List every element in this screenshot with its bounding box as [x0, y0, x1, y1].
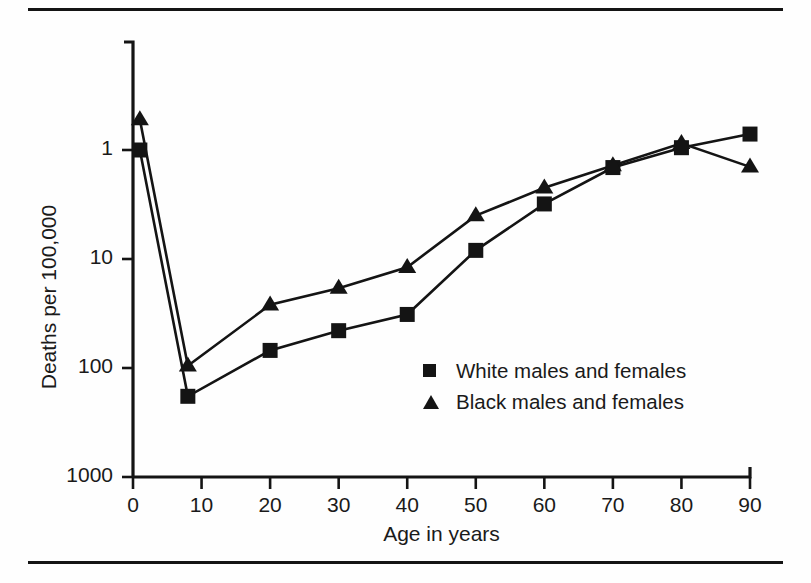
y-axis-tick-label: 1000: [23, 463, 113, 487]
square-marker-icon: [423, 364, 447, 377]
x-axis-tick-label: 70: [578, 493, 648, 517]
legend-label-white: White males and females: [456, 359, 686, 383]
y-axis-tick-label: 1: [23, 136, 113, 160]
axis-group: [122, 42, 750, 489]
x-axis-tick-label: 90: [715, 493, 785, 517]
legend-label-black: Black males and females: [456, 390, 684, 414]
legend-item-black: Black males and females: [423, 386, 686, 417]
data-point-square: [331, 323, 346, 338]
x-axis-tick-label: 10: [167, 493, 237, 517]
x-axis-tick-label: 40: [372, 493, 442, 517]
legend-item-white: White males and females: [423, 355, 686, 386]
x-axis-tick-label: 30: [304, 493, 374, 517]
data-point-square: [180, 389, 195, 404]
x-axis-tick-label: 80: [646, 493, 716, 517]
x-axis-tick-label: 20: [235, 493, 305, 517]
x-axis-title: Age in years: [133, 522, 750, 546]
data-point-square: [263, 343, 278, 358]
x-axis-tick-label: 0: [98, 493, 168, 517]
x-axis-tick-label: 60: [509, 493, 579, 517]
series-line-black: [140, 120, 750, 366]
x-axis-tick-label: 50: [441, 493, 511, 517]
data-point-square: [537, 196, 552, 211]
data-point-square: [468, 243, 483, 258]
data-point-triangle: [398, 258, 416, 273]
figure-container: 10001001010102030405060708090 Deaths per…: [0, 0, 811, 583]
y-axis-title: Deaths per 100,000: [37, 182, 61, 412]
data-point-square: [400, 307, 415, 322]
x-axis-spine: [133, 467, 750, 477]
triangle-marker-icon: [423, 395, 447, 409]
chart-legend: White males and females Black males and …: [423, 355, 686, 417]
data-point-square: [743, 127, 758, 142]
